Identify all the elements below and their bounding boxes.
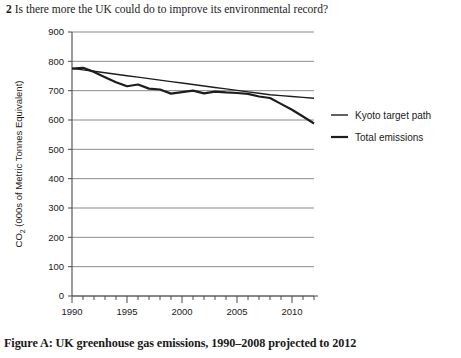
y-tick-label-800: 800 bbox=[48, 56, 64, 67]
y-axis-title-main: CO bbox=[13, 233, 24, 247]
y-axis-title: CO2 (000s of Metric Tonnes Equivalent) bbox=[13, 81, 26, 248]
x-tick-label-1995: 1995 bbox=[116, 306, 137, 317]
y-axis-title-text: CO2 (000s of Metric Tonnes Equivalent) bbox=[13, 81, 26, 248]
y-tick-label-900: 900 bbox=[48, 26, 64, 37]
y-tick-label-400: 400 bbox=[48, 173, 64, 184]
x-tick-label-2010: 2010 bbox=[281, 306, 302, 317]
series-group bbox=[72, 68, 314, 124]
y-tick-label-500: 500 bbox=[48, 144, 64, 155]
legend-label-total-emissions: Total emissions bbox=[355, 132, 423, 143]
line-chart: 0100200300400500600700800900 19901995200… bbox=[0, 18, 461, 330]
y-axis-ticks-group: 0100200300400500600700800900 bbox=[48, 26, 72, 301]
gridlines-group bbox=[72, 32, 314, 296]
question-number: 2 bbox=[6, 3, 12, 15]
legend-label-kyoto-target-path: Kyoto target path bbox=[355, 110, 431, 121]
y-tick-label-700: 700 bbox=[48, 85, 64, 96]
y-tick-label-200: 200 bbox=[48, 232, 64, 243]
chart-legend: Kyoto target pathTotal emissions bbox=[331, 110, 431, 143]
chart-figure: 0100200300400500600700800900 19901995200… bbox=[0, 18, 461, 330]
y-tick-label-300: 300 bbox=[48, 202, 64, 213]
x-tick-label-1990: 1990 bbox=[61, 306, 82, 317]
question-text: Is there more the UK could do to improve… bbox=[15, 3, 328, 15]
y-axis-title-rest: (000s of Metric Tonnes Equivalent) bbox=[13, 81, 24, 230]
question-line: 2Is there more the UK could do to improv… bbox=[6, 2, 456, 16]
x-tick-label-2005: 2005 bbox=[226, 306, 247, 317]
y-tick-label-0: 0 bbox=[59, 290, 64, 301]
figure-caption: Figure A: UK greenhouse gas emissions, 1… bbox=[4, 336, 459, 351]
x-tick-label-2000: 2000 bbox=[171, 306, 192, 317]
y-tick-label-100: 100 bbox=[48, 261, 64, 272]
y-tick-label-600: 600 bbox=[48, 114, 64, 125]
x-axis-ticks-group: 19901995200020052010 bbox=[61, 296, 314, 317]
series-line-kyoto-target-path bbox=[72, 68, 314, 98]
